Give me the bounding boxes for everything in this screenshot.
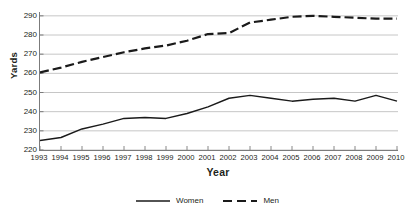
legend-label: Women	[176, 196, 203, 206]
x-axis-tick-labels: 1993199419951996199719981999200020012002…	[39, 153, 397, 165]
legend-swatch-solid-line-icon	[136, 197, 170, 205]
plot-svg	[40, 12, 398, 150]
y-axis-tick-labels: 220230240250260270280290	[15, 12, 37, 150]
y-tick-label: 230	[15, 127, 37, 135]
series-line-women	[40, 95, 397, 140]
gridlines	[40, 16, 398, 150]
y-tick-label: 260	[15, 69, 37, 77]
legend-swatch-dashed-line-icon	[223, 197, 257, 205]
chart-legend: WomenMen	[0, 196, 415, 206]
line-chart: Yards 220230240250260270280290 199319941…	[0, 0, 415, 220]
y-tick-label: 280	[15, 31, 37, 39]
y-tick-label: 290	[15, 12, 37, 20]
legend-item-men[interactable]: Men	[223, 196, 279, 206]
y-tick-marks	[40, 16, 44, 150]
x-tick-label: 2010	[381, 153, 411, 163]
y-tick-label: 270	[15, 50, 37, 58]
y-tick-label: 240	[15, 108, 37, 116]
legend-item-women[interactable]: Women	[136, 196, 203, 206]
x-tick-marks	[40, 146, 397, 150]
y-tick-label: 250	[15, 89, 37, 97]
plot-area	[39, 12, 398, 151]
series-line-men	[40, 16, 397, 73]
legend-label: Men	[263, 196, 279, 206]
x-axis-title: Year	[39, 166, 397, 178]
